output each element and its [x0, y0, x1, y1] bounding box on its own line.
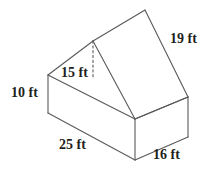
label-slant-left: 15 ft: [61, 66, 88, 80]
label-depth-right: 16 ft: [153, 148, 180, 162]
label-slant-right: 19 ft: [170, 32, 197, 46]
label-height-left: 10 ft: [11, 86, 38, 100]
label-length-front: 25 ft: [59, 138, 86, 152]
geometry-figure: 19 ft 15 ft 10 ft 25 ft 16 ft: [0, 0, 208, 172]
